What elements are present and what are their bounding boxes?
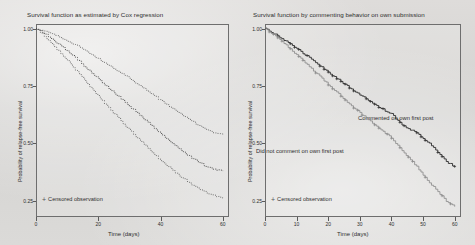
curves-cox: [0, 0, 240, 245]
x-tick-label: 30: [357, 221, 363, 227]
x-tick-label: 60: [452, 221, 458, 227]
censored-marker: [441, 155, 444, 158]
y-tick-label: 0.25: [248, 198, 262, 204]
censored-marker: [420, 135, 423, 138]
censored-marker: [382, 107, 385, 110]
censored-marker: [276, 36, 279, 39]
x-tick-mark: [223, 217, 224, 221]
censored-marker: [407, 156, 410, 159]
x-tick-mark: [328, 217, 329, 221]
survival-curve: [36, 29, 223, 135]
censored-marker: [331, 74, 334, 77]
censored-marker: [377, 127, 380, 130]
censored-marker: [411, 160, 414, 163]
censored-marker: [339, 80, 342, 83]
y-tick-label: 1.00: [248, 26, 262, 32]
survival-curve: [265, 28, 455, 207]
y-tick-label: 0.50: [248, 140, 262, 146]
y-tick-label: 0.50: [19, 140, 33, 146]
censored-marker: [390, 137, 393, 140]
censored-marker: [327, 84, 330, 87]
censored-marker: [302, 59, 305, 62]
censored-marker: [323, 68, 326, 71]
censored-marker: [398, 146, 401, 149]
x-tick-label: 40: [158, 221, 164, 227]
y-tick-mark: [262, 86, 265, 87]
censored-marker: [352, 90, 355, 93]
x-tick-mark: [391, 217, 392, 221]
censored-marker: [331, 87, 334, 90]
survival-analysis-figure: Survival function as estimated by Cox re…: [0, 0, 475, 245]
censored-marker: [293, 46, 296, 49]
censored-marker: [361, 114, 364, 117]
y-tick-mark: [262, 143, 265, 144]
y-tick-mark: [262, 201, 265, 202]
x-tick-mark: [423, 217, 424, 221]
panel-cox-regression: Survival function as estimated by Cox re…: [0, 0, 240, 245]
x-tick-label: 0: [35, 221, 38, 227]
censored-marker: [335, 77, 338, 80]
x-tick-mark: [297, 217, 298, 221]
censored-marker: [314, 72, 317, 75]
y-tick-mark: [33, 86, 36, 87]
censored-marker: [297, 55, 300, 58]
censored-marker: [327, 71, 330, 74]
curves-commenting: [240, 0, 475, 245]
x-tick-label: 40: [389, 221, 395, 227]
censored-marker: [436, 151, 439, 154]
censored-marker: [344, 99, 347, 102]
censored-marker: [377, 106, 380, 109]
survival-curve: [265, 28, 455, 166]
x-tick-label: 20: [325, 221, 331, 227]
x-tick-label: 60: [220, 221, 226, 227]
censored-marker: [424, 139, 427, 142]
x-tick-mark: [98, 217, 99, 221]
x-tick-mark: [455, 217, 456, 221]
censored-marker: [352, 107, 355, 110]
x-tick-mark: [161, 217, 162, 221]
y-tick-mark: [262, 29, 265, 30]
x-tick-label: 20: [95, 221, 101, 227]
y-tick-mark: [33, 201, 36, 202]
censored-marker: [453, 165, 456, 168]
censored-marker: [373, 123, 376, 126]
survival-curve: [36, 29, 223, 171]
panel-commenting-behavior: Survival function by commenting behavior…: [240, 0, 475, 245]
y-tick-label: 1.00: [19, 26, 33, 32]
x-tick-mark: [265, 217, 266, 221]
y-tick-label: 0.75: [19, 83, 33, 89]
x-tick-label: 50: [420, 221, 426, 227]
y-tick-label: 0.25: [19, 198, 33, 204]
y-tick-mark: [33, 143, 36, 144]
y-tick-mark: [33, 29, 36, 30]
censored-marker: [339, 95, 342, 98]
censored-marker: [318, 65, 321, 68]
censored-marker: [424, 176, 427, 179]
x-tick-mark: [36, 217, 37, 221]
censored-marker: [280, 40, 283, 43]
x-tick-mark: [360, 217, 361, 221]
x-tick-label: 10: [294, 221, 300, 227]
censored-marker: [306, 54, 309, 57]
censored-marker: [398, 121, 401, 124]
censored-marker: [365, 97, 368, 100]
y-tick-label: 0.75: [248, 83, 262, 89]
censored-marker: [348, 87, 351, 90]
x-tick-label: 0: [264, 221, 267, 227]
survival-curve: [36, 28, 223, 197]
